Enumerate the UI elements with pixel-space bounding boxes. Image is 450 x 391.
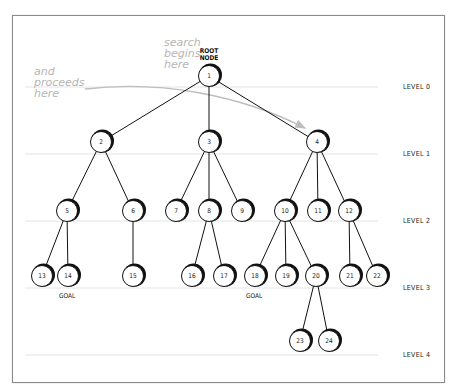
tree-node-15: 15 <box>122 265 144 287</box>
node-number: 24 <box>325 337 332 345</box>
tree-node-2: 2 <box>90 131 112 153</box>
annotation-line: here <box>34 88 85 99</box>
goal-label-node-18: GOAL <box>246 292 262 300</box>
node-number: 2 <box>99 138 103 146</box>
node-number: 18 <box>251 272 258 280</box>
tree-node-17: 17 <box>213 265 235 287</box>
tree-node-22: 22 <box>366 265 388 287</box>
annotation-search-begins: search begins here <box>164 37 201 70</box>
node-number: 23 <box>296 337 303 345</box>
tree-node-11: 11 <box>307 200 329 222</box>
node-number: 5 <box>65 207 69 215</box>
node-number: 13 <box>38 272 45 280</box>
search-tree-diagram: search begins here and proceeds here ROO… <box>0 0 450 391</box>
node-number: 3 <box>207 138 211 146</box>
node-number: 21 <box>346 272 353 280</box>
tree-node-18: 18 <box>244 265 266 287</box>
level-label-4: LEVEL 4 <box>403 351 430 359</box>
node-number: 1 <box>207 72 211 80</box>
node-number: 12 <box>345 207 352 215</box>
tree-node-6: 6 <box>122 200 144 222</box>
goal-label-node-14: GOAL <box>59 292 75 300</box>
tree-node-19: 19 <box>275 265 297 287</box>
node-number: 10 <box>281 207 288 215</box>
level-label-0: LEVEL 0 <box>403 83 430 91</box>
node-number: 19 <box>282 272 289 280</box>
level-label-3: LEVEL 3 <box>403 284 430 292</box>
tree-node-24: 24 <box>318 330 340 352</box>
tree-node-8: 8 <box>198 200 220 222</box>
tree-node-14: 14 <box>57 265 79 287</box>
tree-node-9: 9 <box>231 200 253 222</box>
node-number: 14 <box>64 272 71 280</box>
node-number: 4 <box>315 138 319 146</box>
node-number: 8 <box>207 207 211 215</box>
node-number: 20 <box>312 272 319 280</box>
root-label-line: NODE <box>198 55 220 62</box>
edge-1-4 <box>209 76 317 142</box>
node-number: 9 <box>240 207 244 215</box>
level-label-1: LEVEL 1 <box>403 150 430 158</box>
node-number: 11 <box>314 207 321 215</box>
tree-node-10: 10 <box>274 200 296 222</box>
tree-node-13: 13 <box>31 265 53 287</box>
search-direction-arrow <box>85 86 305 128</box>
node-number: 16 <box>188 272 195 280</box>
annotation-line: here <box>164 59 201 70</box>
root-node-label: ROOT NODE <box>198 48 220 62</box>
annotation-and-proceeds: and proceeds here <box>34 66 85 99</box>
tree-node-23: 23 <box>289 330 311 352</box>
tree-node-7: 7 <box>165 200 187 222</box>
node-number: 22 <box>373 272 380 280</box>
node-number: 15 <box>129 272 136 280</box>
tree-node-5: 5 <box>56 200 78 222</box>
tree-node-1: 1 <box>198 65 220 87</box>
tree-node-20: 20 <box>305 265 327 287</box>
level-label-2: LEVEL 2 <box>403 217 430 225</box>
node-number: 7 <box>174 207 178 215</box>
node-number: 17 <box>220 272 227 280</box>
node-number: 6 <box>131 207 135 215</box>
tree-node-16: 16 <box>181 265 203 287</box>
tree-node-3: 3 <box>198 131 220 153</box>
tree-edges-layer <box>0 0 450 391</box>
tree-node-21: 21 <box>339 265 361 287</box>
tree-node-12: 12 <box>338 200 360 222</box>
tree-node-4: 4 <box>306 131 328 153</box>
